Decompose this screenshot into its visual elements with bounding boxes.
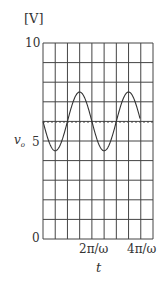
chart-plot [0, 0, 161, 283]
